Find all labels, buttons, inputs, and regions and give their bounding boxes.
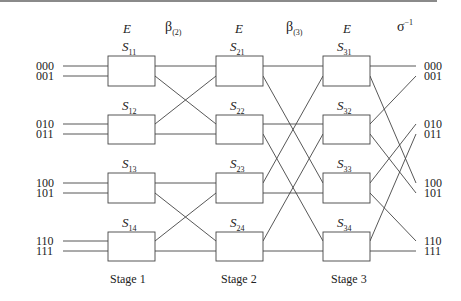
switch-label-s14: S14 bbox=[122, 215, 137, 233]
stage-label-3: Stage 3 bbox=[331, 272, 367, 287]
switch-label-s23: S23 bbox=[230, 156, 245, 174]
input-label: 101 bbox=[36, 188, 54, 199]
header-e-stage1: E bbox=[123, 21, 131, 37]
switch-label-s12: S12 bbox=[122, 98, 137, 116]
sigma-symbol: σ bbox=[397, 19, 405, 34]
input-label: 111 bbox=[36, 246, 53, 257]
output-label: 011 bbox=[424, 129, 442, 140]
stage-label-2: Stage 2 bbox=[221, 272, 257, 287]
switch-label-s13: S13 bbox=[122, 156, 137, 174]
input-label: 001 bbox=[36, 71, 54, 82]
links-stage1-stage2 bbox=[155, 66, 216, 251]
header-e-stage2: E bbox=[235, 21, 243, 37]
header-sigma-inverse: σ−1 bbox=[397, 18, 413, 35]
switch-label-s32: S32 bbox=[337, 98, 352, 116]
switch-label-s11: S11 bbox=[122, 39, 136, 57]
links-stage2-stage3 bbox=[263, 66, 323, 251]
output-label: 001 bbox=[424, 71, 442, 82]
switch-label-s31: S31 bbox=[337, 39, 352, 57]
header-beta3: β(3) bbox=[286, 19, 302, 37]
stage-label-1: Stage 1 bbox=[110, 272, 146, 287]
input-lines bbox=[63, 66, 108, 251]
input-label: 011 bbox=[36, 129, 54, 140]
switch-label-s33: S33 bbox=[337, 156, 352, 174]
output-label: 111 bbox=[424, 246, 441, 257]
switch-label-s34: S34 bbox=[337, 215, 352, 233]
switch-label-s24: S24 bbox=[230, 215, 245, 233]
sigma-superscript: −1 bbox=[405, 18, 414, 27]
links-stage3-outputs bbox=[370, 66, 416, 251]
switch-label-s22: S22 bbox=[230, 98, 245, 116]
beta-subscript: (2) bbox=[172, 28, 181, 37]
header-e-stage3: E bbox=[343, 21, 351, 37]
output-label: 101 bbox=[424, 188, 442, 199]
beta-subscript: (3) bbox=[293, 28, 302, 37]
header-beta2: β(2) bbox=[165, 19, 181, 37]
switch-label-s21: S21 bbox=[230, 39, 245, 57]
